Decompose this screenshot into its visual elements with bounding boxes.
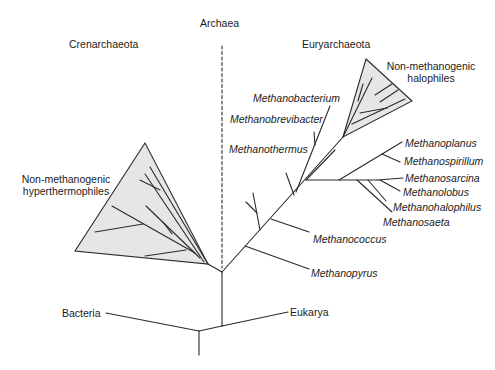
label-halophiles-line2: halophiles — [385, 72, 477, 84]
branch-euryarchaeota — [222, 137, 343, 272]
label-halophiles: Non-methanogenic halophiles — [385, 60, 477, 84]
label-eukarya: Eukarya — [290, 306, 329, 318]
label-methanolobus: Methanolobus — [403, 186, 469, 198]
label-hyperthermophiles: Non-methanogenic hyperthermophiles — [20, 173, 112, 197]
label-methanosaeta: Methanosaeta — [383, 216, 450, 228]
branch-crenarchaeota — [208, 264, 222, 272]
label-methanothermus: Methanothermus — [229, 143, 308, 155]
label-methanosarcina: Methanosarcina — [405, 172, 480, 184]
branch-eukarya — [222, 312, 288, 326]
label-methanospirillum: Methanospirillum — [404, 155, 483, 167]
label-methanobacterium: Methanobacterium — [253, 92, 340, 104]
label-methanococcus: Methanococcus — [313, 233, 387, 245]
branch-bacteria — [106, 313, 199, 331]
label-bacteria: Bacteria — [62, 307, 101, 319]
label-euryarchaeota: Euryarchaeota — [302, 38, 370, 50]
label-methanopyrus: Methanopyrus — [311, 267, 378, 279]
label-archaea: Archaea — [200, 17, 239, 29]
label-methanohalophilus: Methanohalophilus — [393, 201, 481, 213]
label-methanobrevibacter: Methanobrevibacter — [230, 113, 323, 125]
label-hyperthermophiles-line1: Non-methanogenic — [20, 173, 112, 185]
label-methanoplanus: Methanoplanus — [405, 137, 477, 149]
trunk-lower — [199, 326, 222, 331]
label-hyperthermophiles-line2: hyperthermophiles — [20, 185, 112, 197]
label-crenarchaeota: Crenarchaeota — [69, 38, 138, 50]
label-halophiles-line1: Non-methanogenic — [385, 60, 477, 72]
